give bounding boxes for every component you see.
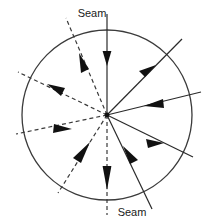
seam-label-top: Seam [78, 7, 107, 19]
center-hub-dot [105, 113, 110, 118]
spoke-downleft-dashed [58, 115, 107, 193]
arrowhead-inward [53, 124, 72, 133]
spoke-line [107, 39, 182, 115]
spoke-right-solid [107, 92, 201, 115]
seam-label-bottom: Seam [118, 206, 147, 218]
arrowhead-inward [103, 51, 112, 66]
arrowhead-outward [139, 65, 156, 77]
spoke-downright2-solid [107, 115, 152, 209]
spoke-up-solid [103, 14, 112, 115]
arrowhead-outward [103, 166, 112, 190]
spoke-upleft-dashed [18, 72, 107, 115]
arrowhead-inward [123, 146, 138, 164]
spoke-downright-solid [107, 115, 193, 157]
arrowhead-inward [73, 142, 90, 163]
arrowhead-outward [47, 84, 65, 96]
arrowhead-inward [144, 99, 164, 108]
spoke-left-dashed [16, 115, 107, 134]
spoke-upright-solid [107, 39, 182, 115]
spoke-line [18, 72, 107, 115]
arrowhead-outward [146, 139, 164, 148]
spoke-line [107, 115, 193, 157]
diagram-canvas: Seam Seam [0, 0, 213, 224]
seam-diagram-figure: Seam Seam [0, 0, 213, 224]
